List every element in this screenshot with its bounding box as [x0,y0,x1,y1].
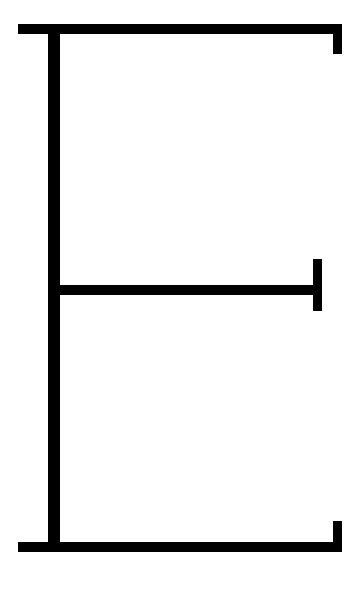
top-bar [18,24,342,34]
diagram-canvas: Black line glyph resembling a stylized l… [0,0,359,589]
diagram-description: Black line glyph resembling a stylized l… [0,0,1,1]
middle-right-tick [313,259,322,311]
bottom-bar [18,542,342,552]
bottom-right-tick [333,521,342,552]
middle-bar [55,285,319,295]
top-right-tick [333,24,342,54]
